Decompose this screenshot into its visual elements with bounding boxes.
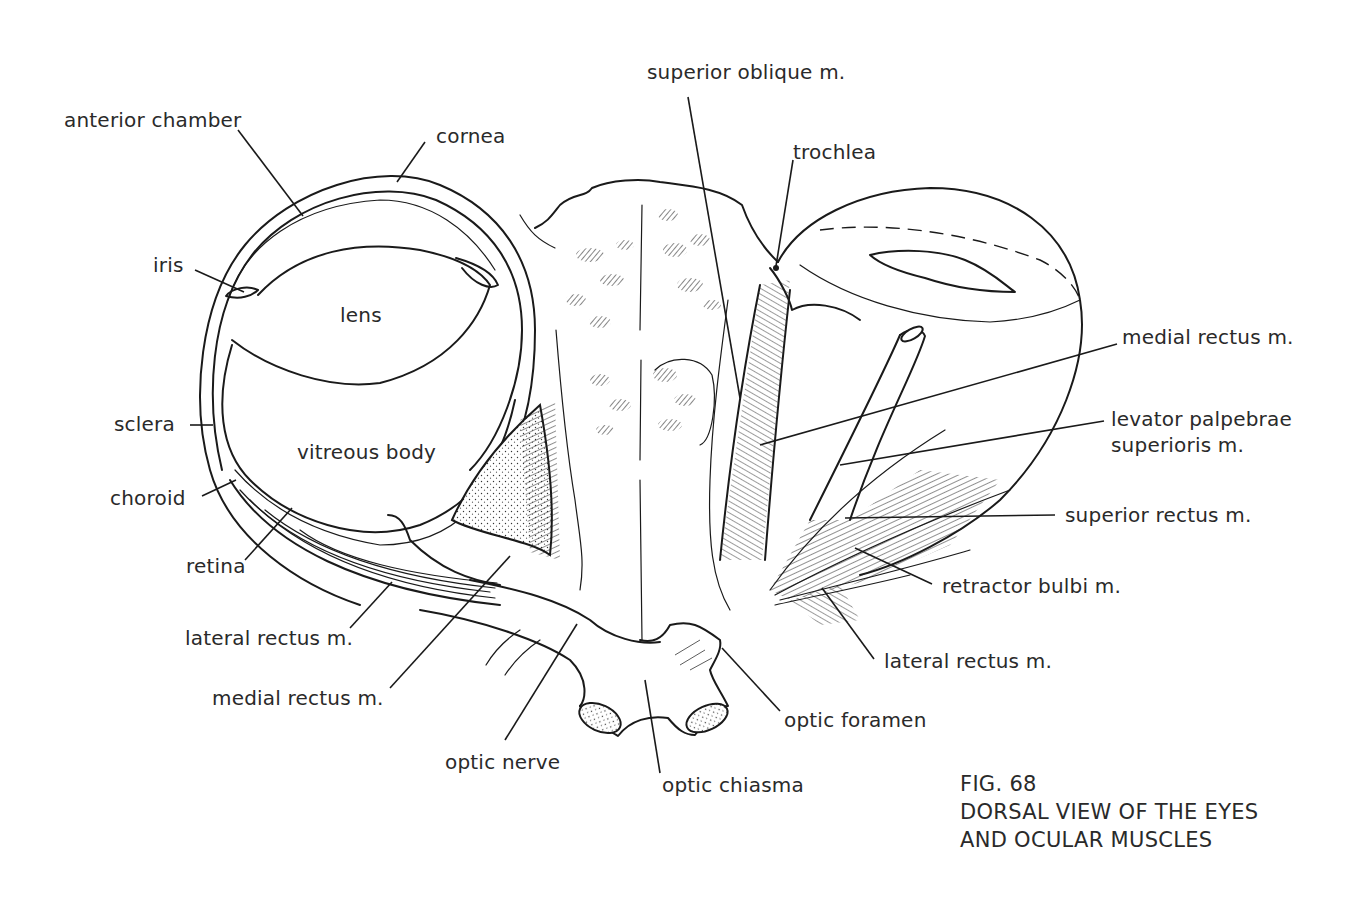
label-trochlea: trochlea — [793, 142, 876, 162]
label-sclera: sclera — [114, 414, 175, 434]
figure-caption: FIG. 68 DORSAL VIEW OF THE EYES AND OCUL… — [960, 770, 1258, 854]
label-levator-line2: superioris m. — [1111, 435, 1244, 455]
label-lateral-rectus-right: lateral rectus m. — [884, 651, 1052, 671]
figure-title-line2: AND OCULAR MUSCLES — [960, 826, 1258, 854]
label-levator-line1: levator palpebrae — [1111, 409, 1292, 429]
label-cornea: cornea — [436, 126, 506, 146]
optic-chiasma-drawing — [575, 623, 732, 739]
label-retina: retina — [186, 556, 246, 576]
label-vitreous-body: vitreous body — [297, 442, 436, 462]
label-anterior-chamber: anterior chamber — [64, 110, 242, 130]
anatomical-figure: anterior chamber cornea iris lens sclera… — [0, 0, 1371, 897]
label-optic-nerve: optic nerve — [445, 752, 560, 772]
label-optic-foramen: optic foramen — [784, 710, 927, 730]
label-medial-rectus-right: medial rectus m. — [1122, 327, 1294, 347]
label-retractor-bulbi: retractor bulbi m. — [942, 576, 1121, 596]
label-choroid: choroid — [110, 488, 186, 508]
label-iris: iris — [153, 255, 184, 275]
right-eye-external — [720, 188, 1082, 625]
figure-number: FIG. 68 — [960, 770, 1258, 798]
label-lens: lens — [340, 305, 382, 325]
label-superior-rectus: superior rectus m. — [1065, 505, 1252, 525]
label-optic-chiasma: optic chiasma — [662, 775, 804, 795]
label-medial-rectus-left: medial rectus m. — [212, 688, 384, 708]
label-lateral-rectus-left: lateral rectus m. — [185, 628, 353, 648]
figure-title-line1: DORSAL VIEW OF THE EYES — [960, 798, 1258, 826]
label-superior-oblique: superior oblique m. — [647, 62, 845, 82]
